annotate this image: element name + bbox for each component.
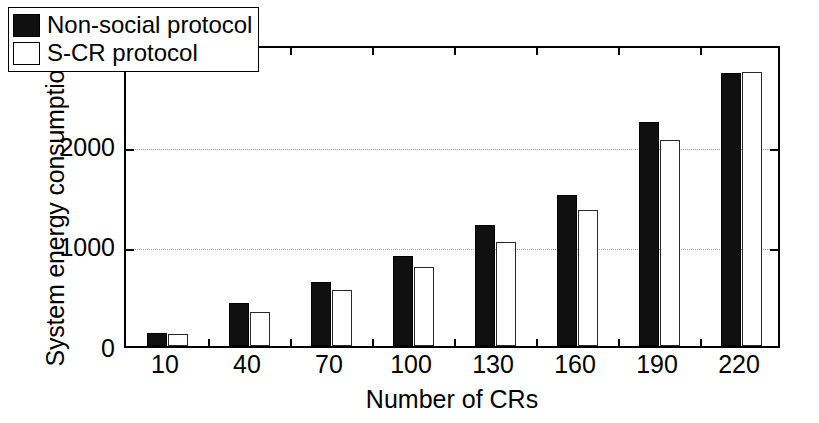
x-tick-label: 190: [636, 352, 678, 377]
bar: [332, 290, 352, 346]
bar-group: [229, 48, 270, 346]
gridline: [126, 149, 778, 150]
y-tick-mark: [770, 249, 778, 251]
x-tick-label: 70: [315, 352, 343, 377]
y-tick-mark: [126, 249, 134, 251]
y-tick-mark: [770, 149, 778, 151]
bar: [250, 312, 270, 346]
x-axis-tick-labels: 104070100130160190220: [124, 352, 780, 386]
x-tick-label: 220: [718, 352, 760, 377]
x-tick-mark: [536, 339, 538, 346]
legend-item: S-CR protocol: [13, 39, 252, 67]
x-tick-label: 160: [554, 352, 596, 377]
bar: [742, 72, 762, 346]
bar-group: [393, 48, 434, 346]
bar-group: [147, 48, 188, 346]
bar: [721, 73, 741, 346]
bar: [557, 195, 577, 346]
x-tick-mark: [208, 339, 210, 346]
y-tick-label: 1000: [28, 235, 122, 260]
y-tick-label: 0: [28, 336, 122, 361]
bar-group: [311, 48, 352, 346]
bar-group: [721, 48, 762, 346]
bar: [578, 210, 598, 346]
chart-legend: Non-social protocolS-CR protocol: [8, 7, 259, 72]
bar: [168, 334, 188, 346]
legend-swatch-filled-icon: [13, 14, 40, 37]
x-tick-mark: [290, 339, 292, 346]
x-tick-label: 100: [390, 352, 432, 377]
bar-chart-figure: System energy consumption (J) 0100020003…: [0, 0, 819, 423]
bar: [475, 225, 495, 346]
y-tick-label: 2000: [28, 134, 122, 159]
x-tick-mark: [372, 339, 374, 346]
legend-swatch-open-icon: [13, 42, 40, 65]
x-tick-mark: [454, 339, 456, 346]
x-tick-mark: [700, 48, 702, 55]
x-tick-mark: [536, 48, 538, 55]
bar: [639, 122, 659, 346]
legend-label: S-CR protocol: [47, 41, 198, 65]
x-tick-label: 10: [151, 352, 179, 377]
bar: [414, 267, 434, 346]
bar-group: [639, 48, 680, 346]
x-tick-label: 40: [233, 352, 261, 377]
x-tick-mark: [618, 48, 620, 55]
bar: [393, 256, 413, 346]
y-tick-mark: [126, 149, 134, 151]
legend-label: Non-social protocol: [47, 13, 252, 37]
bar-group: [475, 48, 516, 346]
x-tick-mark: [454, 48, 456, 55]
plot-area: [124, 46, 780, 348]
legend-item: Non-social protocol: [13, 11, 252, 39]
bar: [229, 303, 249, 346]
x-tick-mark: [700, 339, 702, 346]
bar: [660, 140, 680, 346]
bar-group: [557, 48, 598, 346]
x-tick-label: 130: [472, 352, 514, 377]
x-axis-title: Number of CRs: [124, 385, 780, 414]
bar: [311, 282, 331, 346]
x-tick-mark: [372, 48, 374, 55]
x-tick-mark: [618, 339, 620, 346]
gridline: [126, 249, 778, 250]
bar: [496, 242, 516, 346]
bar: [147, 333, 167, 346]
x-tick-mark: [290, 48, 292, 55]
